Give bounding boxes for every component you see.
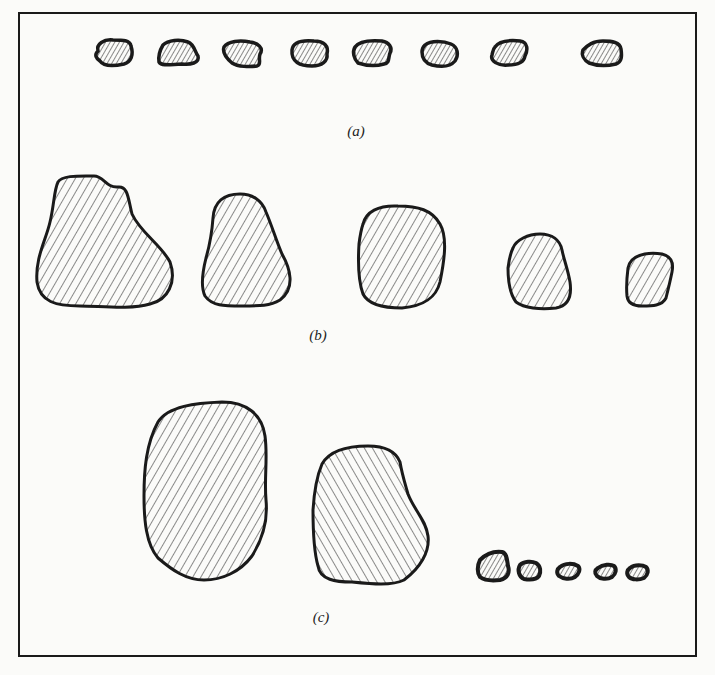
particle — [492, 41, 527, 65]
particle-diagram: (a) (b) (c) — [0, 0, 715, 675]
particle — [595, 565, 616, 579]
particle — [557, 564, 579, 579]
particle — [159, 40, 199, 65]
particle — [292, 41, 328, 66]
panel-b-label: (b) — [309, 327, 327, 344]
particle — [96, 40, 132, 66]
particle — [422, 42, 457, 67]
panel-c-label: (c) — [313, 609, 330, 626]
panel-a-label: (a) — [347, 123, 365, 140]
particle — [478, 552, 509, 581]
panel-c-particles — [144, 402, 648, 584]
particle — [202, 194, 290, 306]
particle — [627, 253, 673, 306]
particle — [354, 41, 391, 66]
particle — [627, 565, 648, 579]
panel-a-particles — [96, 40, 622, 67]
particle — [223, 41, 261, 66]
panel-b-particles — [37, 176, 673, 309]
particle — [358, 206, 444, 308]
particle — [519, 562, 541, 580]
particle — [508, 234, 570, 309]
particle — [313, 446, 428, 584]
particle — [37, 176, 173, 307]
particle — [582, 41, 621, 65]
particle — [144, 402, 266, 580]
